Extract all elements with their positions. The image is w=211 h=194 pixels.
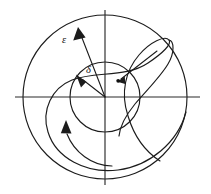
trajectory-point-dot — [116, 79, 120, 83]
flow-direction-arrow-icon — [61, 120, 72, 134]
spiral-trajectory — [46, 38, 186, 170]
loop-arc — [119, 40, 173, 136]
epsilon-arrow-icon — [73, 27, 85, 40]
stability-diagram-figure: ε δ — [0, 0, 211, 194]
delta-label: δ — [86, 64, 92, 75]
diagram-canvas: ε δ — [0, 0, 211, 194]
epsilon-label: ε — [62, 34, 67, 45]
